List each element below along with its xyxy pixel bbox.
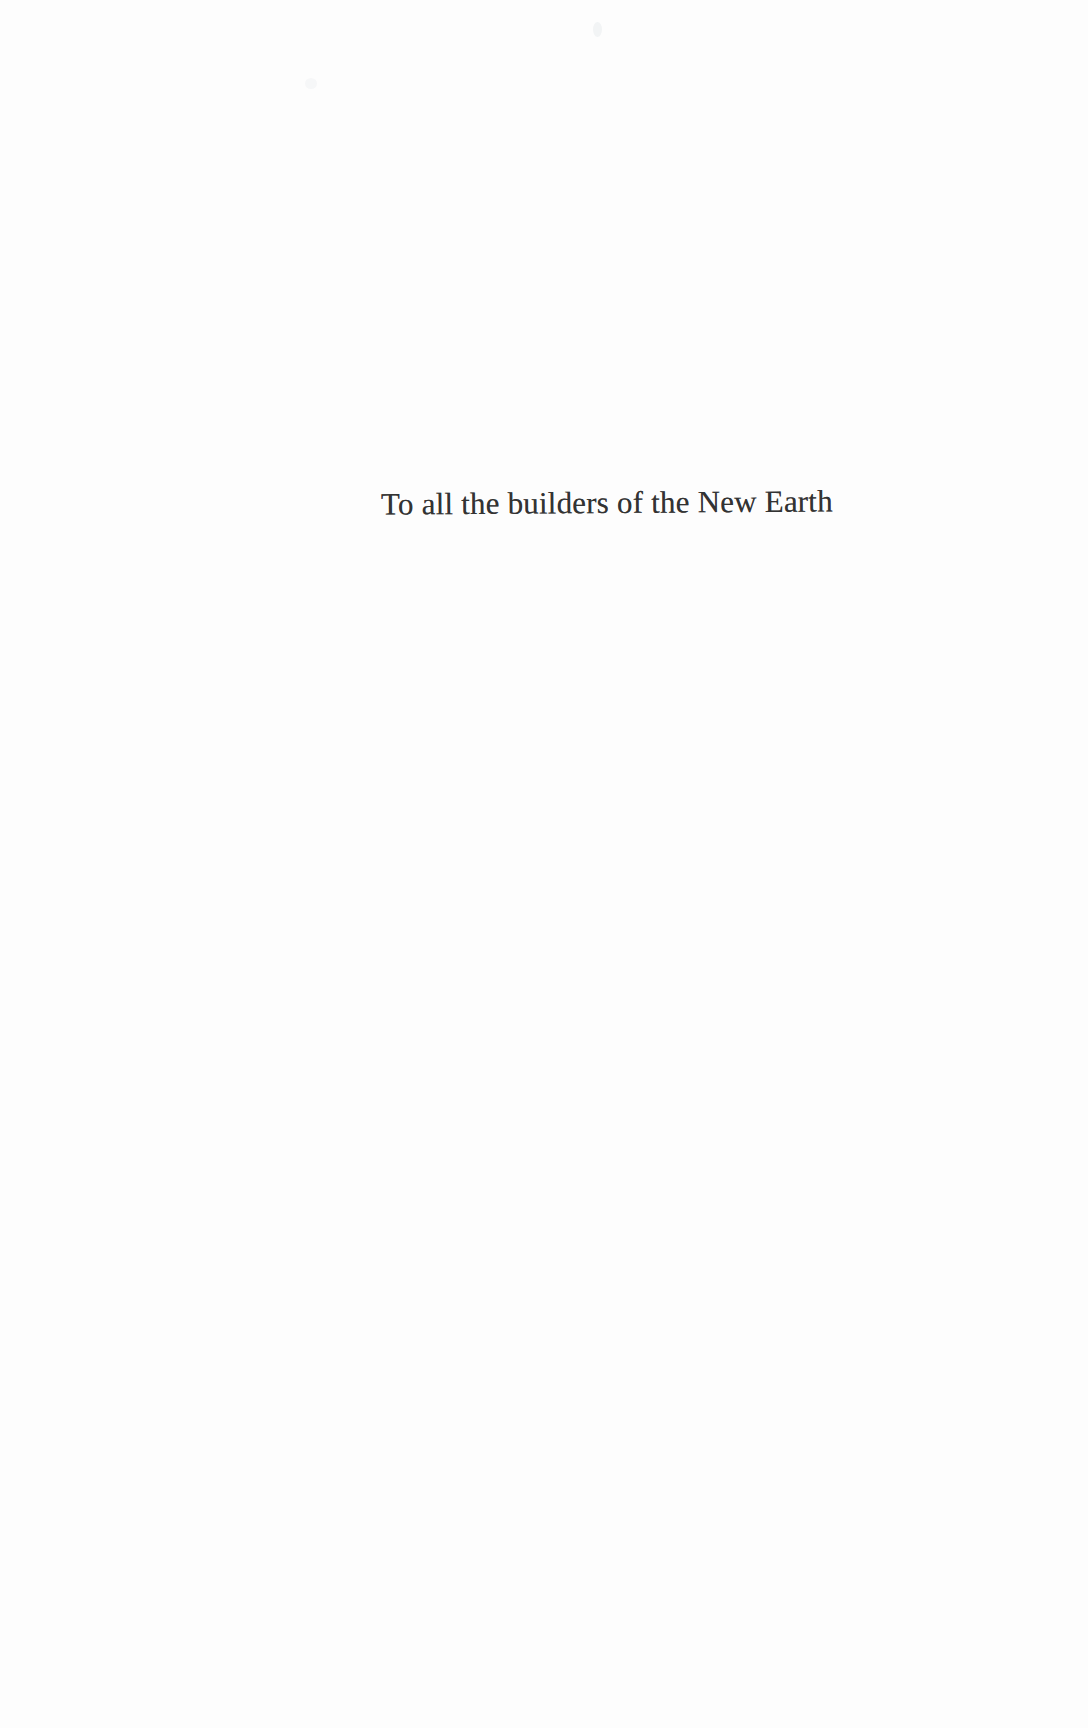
book-page: To all the builders of the New Earth — [0, 0, 1088, 1728]
scan-smudge-artifact — [593, 22, 602, 37]
scan-smudge-artifact — [305, 78, 317, 89]
dedication-text: To all the builders of the New Earth — [381, 484, 833, 521]
